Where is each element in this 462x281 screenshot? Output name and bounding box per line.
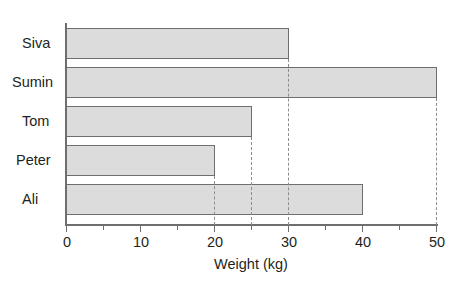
bar-chart-figure: Siva Sumin Tom Peter Ali 0 10 20 30 40 5… [0, 0, 462, 281]
x-tick-minor-45 [399, 226, 400, 230]
bar-row-sumin [66, 67, 437, 98]
x-tick-30 [288, 226, 289, 232]
x-tick-minor-15 [177, 226, 178, 230]
x-tick-label-40: 40 [355, 234, 371, 250]
x-tick-40 [362, 226, 363, 232]
bar-siva[interactable] [66, 28, 289, 59]
guide-dash-peter-20 [214, 176, 215, 225]
bar-tom[interactable] [66, 106, 252, 137]
x-tick-label-0: 0 [63, 234, 71, 250]
x-tick-50 [436, 226, 437, 232]
x-tick-label-30: 30 [281, 234, 297, 250]
x-tick-20 [214, 226, 215, 232]
x-tick-0 [66, 226, 67, 232]
x-tick-minor-25 [251, 226, 252, 230]
x-tick-minor-5 [103, 226, 104, 230]
guide-dash-sumin-50 [436, 98, 437, 225]
bar-row-siva [66, 28, 437, 59]
bar-sumin[interactable] [66, 67, 437, 98]
x-tick-10 [140, 226, 141, 232]
x-axis-title: Weight (kg) [0, 256, 462, 272]
guide-dash-siva-30 [288, 59, 289, 225]
x-tick-label-20: 20 [207, 234, 223, 250]
x-tick-minor-35 [325, 226, 326, 230]
x-tick-label-50: 50 [429, 234, 445, 250]
bar-peter[interactable] [66, 145, 215, 176]
x-tick-label-10: 10 [133, 234, 149, 250]
guide-dash-tom-25 [251, 137, 252, 225]
bar-row-tom [66, 106, 437, 137]
